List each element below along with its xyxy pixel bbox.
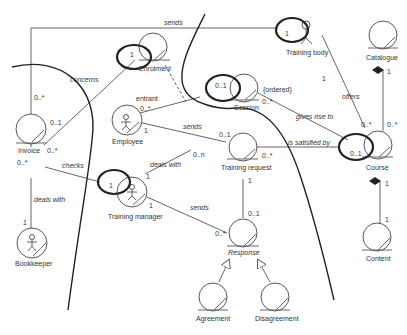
- mult: 0..*: [17, 159, 28, 166]
- mult: 0..n: [193, 151, 205, 158]
- assoc-gives-rise-to: gives rise to: [296, 113, 333, 121]
- sends-emp-line: [138, 122, 226, 142]
- mult: 0..*: [34, 94, 45, 101]
- label-enrolment: Enrolment: [139, 65, 171, 72]
- assoc-concerns: concerns: [70, 76, 99, 83]
- mult: 1: [146, 173, 150, 180]
- mult: 1: [385, 216, 389, 223]
- mult: 0..*: [140, 105, 151, 112]
- mult: 0..1: [50, 119, 62, 126]
- entity-training-body[interactable]: [276, 18, 312, 44]
- mult: 0..1: [248, 210, 260, 217]
- label-response: Response: [228, 249, 260, 257]
- assoc-entrant: entrant: [136, 95, 158, 102]
- class-diagram-canvas: Invoice Enrolment Training body Catalogu…: [0, 0, 407, 335]
- entity-training-manager[interactable]: [98, 170, 147, 207]
- entity-disagreement[interactable]: [260, 283, 290, 311]
- mult: 1: [322, 75, 326, 82]
- assoc-offers: offers: [342, 93, 360, 100]
- mult: 0..*: [361, 121, 372, 128]
- entity-course[interactable]: [339, 131, 393, 160]
- mult: 0..*: [387, 121, 398, 128]
- association-lines: [31, 28, 383, 282]
- entity-content[interactable]: [362, 223, 392, 251]
- entity-invoice[interactable]: [16, 114, 46, 144]
- mult: 0..*: [262, 152, 273, 159]
- label-training-request: Training request: [221, 164, 271, 172]
- mult: 0..*: [262, 98, 273, 105]
- disagreement-generalization: [258, 260, 270, 282]
- mult: 1: [248, 177, 252, 184]
- mult: 0..1: [215, 82, 227, 89]
- assoc-ordered: {ordered}: [263, 86, 292, 94]
- label-agreement: Agreement: [196, 315, 230, 323]
- entity-employee[interactable]: [112, 105, 142, 135]
- label-disagreement: Disagreement: [255, 315, 299, 323]
- assoc-is-satisfied-by: is satisfied by: [288, 139, 331, 147]
- label-session: Session: [234, 104, 259, 111]
- mult: 0..1: [219, 131, 231, 138]
- mult: 1: [149, 202, 153, 209]
- left-boundary-curve: [12, 64, 93, 310]
- label-training-body: Training body: [286, 49, 329, 57]
- label-course: Course: [366, 164, 389, 171]
- mult: 1: [387, 68, 391, 75]
- entity-agreement[interactable]: [198, 283, 228, 311]
- mult: 1: [144, 127, 148, 134]
- label-invoice: Invoice: [18, 147, 40, 154]
- label-employee: Employee: [112, 138, 143, 146]
- assoc-sends-emp: sends: [183, 123, 202, 130]
- agreement-generalization: [219, 260, 229, 282]
- entity-training-request[interactable]: [227, 133, 258, 161]
- assoc-sends-top: sends: [164, 19, 183, 26]
- label-training-manager: Training manager: [108, 213, 163, 221]
- checks-line: [45, 167, 100, 182]
- label-bookkeeper: Bookkeeper: [15, 260, 53, 268]
- label-content: Content: [366, 255, 391, 262]
- assoc-checks: checks: [62, 162, 84, 169]
- mult: 1: [130, 51, 134, 58]
- entity-response[interactable]: [227, 219, 259, 247]
- mult: 1: [385, 180, 389, 187]
- entity-session[interactable]: [206, 74, 259, 102]
- mult: 0..1: [350, 150, 362, 157]
- assoc-sends-tm: sends: [190, 204, 209, 211]
- label-catalogue: Catalogue: [366, 54, 398, 62]
- mult: 0..*: [47, 147, 58, 154]
- entity-enrolment[interactable]: [117, 33, 170, 69]
- mult: 1: [109, 182, 113, 189]
- entity-catalogue[interactable]: [368, 21, 398, 49]
- highlight-circle: [276, 18, 308, 42]
- mult: 0..*: [215, 230, 226, 237]
- assoc-deals-with-tm: deals with: [150, 161, 181, 168]
- entity-bookkeeper[interactable]: [17, 228, 47, 258]
- assoc-deals-with-bk: deals with: [34, 196, 65, 203]
- mult: 1: [23, 219, 27, 226]
- mult: 1: [285, 30, 289, 37]
